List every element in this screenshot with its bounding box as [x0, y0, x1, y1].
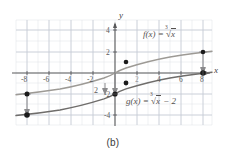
x-tick-label-neg4: -4 [65, 75, 71, 84]
x-tick-label-4: 4 [157, 75, 161, 84]
x-tick-label-neg8: -8 [21, 75, 27, 84]
radicand-g: x [156, 95, 161, 106]
function-label-f-prefix: f(x) = [143, 29, 166, 39]
function-label-g-suffix: − 2 [161, 96, 176, 106]
point-g-neg8 [24, 112, 30, 118]
y-tick-label-4: 4 [106, 26, 110, 35]
point-g-one [124, 81, 129, 86]
function-label-g-prefix: g(x) = [126, 96, 151, 106]
radicand-f: x [171, 28, 176, 39]
y-axis-label: y [119, 10, 123, 20]
y-tick-label-neg4: -4 [104, 111, 110, 120]
point-f-neg8 [25, 92, 30, 97]
radical-f: 3√x [166, 29, 176, 39]
axes [12, 22, 210, 126]
x-tick-label-2: 2 [135, 75, 139, 84]
y-axis-arrowhead [113, 22, 117, 28]
point-f-one [124, 60, 129, 65]
function-label-g: g(x) = 3√x − 2 [126, 96, 176, 106]
y-tick-label-2: 2 [106, 48, 110, 57]
function-label-f: f(x) = 3√x [143, 29, 176, 39]
x-tick-label-neg6: -6 [43, 75, 49, 84]
shift-amount-label: 2 [94, 86, 98, 95]
radical-index-f: 3 [165, 24, 168, 30]
x-axis-label: x [214, 65, 218, 75]
cube-root-translation-figure [0, 0, 226, 150]
y-tick-label-neg2: -2 [104, 90, 110, 99]
point-f-eight [201, 50, 206, 55]
radical-index-g: 3 [150, 91, 153, 97]
x-tick-label-6: 6 [179, 75, 183, 84]
radical-g: 3√x [151, 96, 161, 106]
x-tick-label-8: 8 [200, 75, 204, 84]
figure-caption: (b) [0, 137, 226, 148]
x-tick-label-neg2: -2 [87, 75, 93, 84]
